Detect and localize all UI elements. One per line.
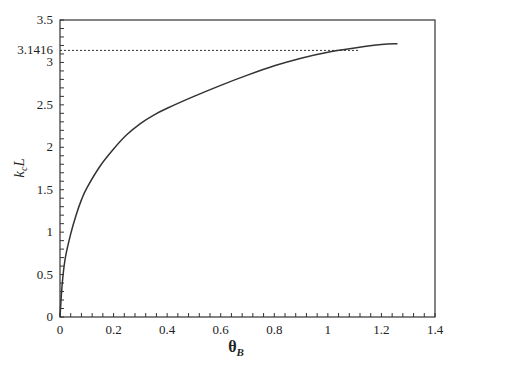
x-tick-label: 1.4 (427, 322, 444, 337)
reference-line-label: 3.1416 (17, 42, 53, 57)
y-axis-tick-labels: 00.511.522.533.5 (37, 12, 53, 324)
x-tick-label: 1 (325, 322, 332, 337)
x-tick-label: 0.4 (159, 322, 176, 337)
x-tick-label: 0.2 (105, 322, 121, 337)
y-tick-label: 0.5 (37, 267, 53, 282)
x-tick-label: 0.8 (266, 322, 282, 337)
plot-frame (60, 20, 435, 317)
y-axis-label: kcL (11, 158, 29, 177)
x-tick-label: 1.2 (373, 322, 389, 337)
y-tick-label: 2.5 (37, 97, 53, 112)
x-axis-label-subscript: B (236, 346, 244, 358)
reference-line-group: 3.1416 (17, 42, 360, 57)
x-axis-label: θB (228, 338, 244, 358)
y-tick-label: 1 (47, 224, 54, 239)
y-tick-label: 3.5 (37, 12, 53, 27)
chart: 00.20.40.60.811.21.4 00.511.522.533.5 3.… (0, 0, 507, 366)
data-series (60, 44, 398, 317)
x-tick-label: 0 (57, 322, 64, 337)
plot-border (60, 20, 435, 317)
series-line (60, 44, 398, 317)
x-axis-label-main: θ (228, 338, 236, 355)
y-tick-label: 1.5 (37, 182, 53, 197)
y-tick-label: 2 (47, 139, 54, 154)
x-axis-tick-labels: 00.20.40.60.811.21.4 (57, 322, 444, 337)
x-tick-label: 0.6 (213, 322, 230, 337)
y-tick-label: 0 (47, 309, 54, 324)
y-axis-label-L: L (11, 158, 27, 167)
